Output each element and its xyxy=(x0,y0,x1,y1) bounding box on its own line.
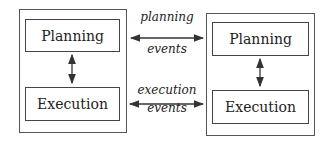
arrows-layer xyxy=(0,0,331,144)
